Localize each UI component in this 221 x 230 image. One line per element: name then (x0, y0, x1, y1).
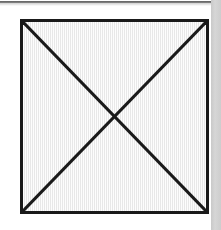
scanned-figure-canvas (0, 0, 221, 230)
scan-artifact-top-shadow (0, 3, 221, 6)
scan-artifact-right-strip (211, 0, 221, 230)
square-outline (20, 19, 209, 214)
diagonals-group (23, 22, 206, 211)
